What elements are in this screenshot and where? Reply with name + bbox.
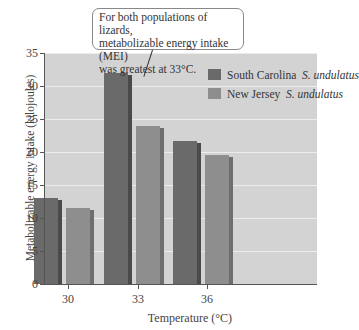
y-tick: [40, 86, 45, 87]
bar-south-carolina-36: [173, 141, 201, 284]
gridline: [45, 119, 317, 120]
legend-region: South Carolina: [227, 69, 296, 81]
y-tick: [40, 185, 45, 186]
x-tick: [68, 284, 69, 289]
bar-side: [90, 210, 94, 284]
legend-swatch-south-carolina: [208, 69, 221, 80]
legend-swatch-new-jersey: [208, 88, 221, 99]
bar-face: [136, 126, 160, 284]
gridline: [45, 86, 317, 87]
bar-south-carolina-33: [104, 73, 132, 284]
bar-face: [66, 208, 90, 284]
callout-line-2: metabolizable energy intake (MEI): [99, 37, 237, 63]
x-tick-label: 36: [192, 292, 222, 307]
callout-line-1: For both populations of lizards,: [99, 11, 237, 37]
x-tick: [207, 284, 208, 289]
legend-item-new-jersey: New Jersey S. undulatus: [208, 88, 343, 100]
y-tick-label: 35: [18, 47, 38, 59]
bar-side: [229, 157, 233, 284]
bar-face: [205, 155, 229, 284]
bar-new-jersey-33: [136, 126, 164, 284]
annotation-callout: For both populations of lizards, metabol…: [92, 8, 244, 50]
y-tick: [40, 119, 45, 120]
y-tick: [40, 53, 45, 54]
bar-side: [197, 143, 201, 284]
bar-new-jersey-36: [205, 155, 233, 284]
bar-side: [58, 200, 62, 284]
legend-region: New Jersey: [227, 88, 280, 100]
bar-side: [160, 128, 164, 284]
x-tick: [138, 284, 139, 289]
bar-new-jersey-30: [66, 208, 94, 284]
bar-side: [128, 75, 132, 284]
y-tick: [40, 218, 45, 219]
bar-face: [173, 141, 197, 284]
y-tick: [40, 251, 45, 252]
legend-item-south-carolina: South Carolina S. undulatus: [208, 69, 359, 81]
bar-face: [104, 73, 128, 284]
y-axis-title: Metabolizable energy intake (kilojoules): [24, 68, 36, 268]
legend-species: S. undulatus: [302, 69, 359, 81]
x-axis: [44, 284, 317, 285]
x-axis-title: Temperature (°C): [100, 311, 280, 326]
y-tick-label: 0: [18, 278, 38, 290]
legend-species: S. undulatus: [286, 88, 343, 100]
x-tick-label: 33: [123, 292, 153, 307]
x-tick-label: 30: [53, 292, 83, 307]
y-tick: [40, 284, 45, 285]
bar-south-carolina-30: [34, 198, 62, 284]
y-tick: [40, 152, 45, 153]
